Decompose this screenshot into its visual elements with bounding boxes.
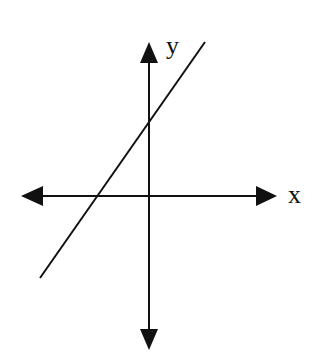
x-axis-left-arrow-icon <box>21 186 43 206</box>
x-axis-right-arrow-icon <box>256 186 277 206</box>
y-axis-label: y <box>166 31 179 60</box>
x-axis-label: x <box>288 180 301 209</box>
y-axis-up-arrow-icon <box>140 42 158 63</box>
plotted-line <box>40 42 205 278</box>
coordinate-plane: y x <box>0 0 321 353</box>
y-axis-down-arrow-icon <box>140 329 158 350</box>
